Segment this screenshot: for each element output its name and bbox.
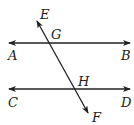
label-e: E: [39, 7, 50, 22]
label-f: F: [91, 110, 102, 125]
label-d: D: [120, 95, 132, 110]
label-h: H: [77, 74, 90, 89]
label-a: A: [7, 48, 17, 63]
label-b: B: [120, 48, 131, 63]
geometry-diagram: E G A B H C D F: [0, 0, 134, 125]
label-g: G: [51, 27, 61, 42]
label-c: C: [8, 95, 18, 110]
transversal-ef: [37, 21, 88, 113]
